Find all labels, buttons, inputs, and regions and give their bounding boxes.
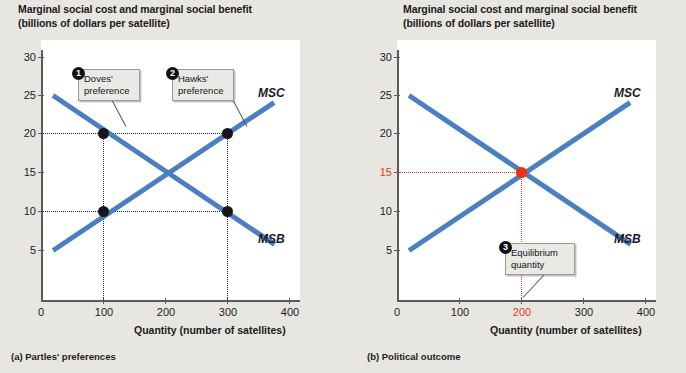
- panel-a-title-line1: Marginal social cost and marginal social…: [18, 3, 328, 17]
- panel-a-xlabel-100: 100: [87, 306, 121, 318]
- panel-a-curve-label-msb: MSB: [258, 232, 285, 246]
- panel-b-xaxis-caption: Quantity (number of satellites): [490, 324, 642, 336]
- panel-b-callout3-line2: quantity: [511, 259, 569, 271]
- panel-b-callout-equilibrium: Equilibrium quantity: [505, 243, 575, 275]
- panel-a-guide-y20: [41, 133, 228, 134]
- panel-b-ylabel-20: 20: [366, 127, 392, 139]
- panel-a-xlabel-200: 200: [149, 306, 183, 318]
- panel-b-ylabel-5: 5: [366, 244, 392, 256]
- panel-political-outcome: Marginal social cost and marginal social…: [343, 0, 686, 373]
- panel-a-ylabel-30: 30: [10, 51, 36, 63]
- panel-a-curve-label-msc: MSC: [258, 86, 285, 100]
- panel-b-callout3-badge: 3: [499, 241, 512, 254]
- panel-a-callout2-badge: 2: [166, 67, 179, 80]
- panel-a-ytick-25: [38, 95, 44, 96]
- panel-b-ylabel-10: 10: [366, 205, 392, 217]
- panel-a-ylabel-5: 5: [10, 244, 36, 256]
- panel-a-title-line2: (billions of dollars per satellite): [18, 17, 328, 31]
- panel-a-xtick-400: [289, 298, 290, 304]
- panel-a-marker-doves-preference: [98, 128, 109, 139]
- panel-b-caption: (b) Political outcome: [367, 351, 460, 362]
- panel-a-x-axis: [41, 300, 300, 302]
- panel-a-callout1-line1: Doves': [84, 73, 134, 85]
- panel-b-y-axis: [397, 50, 399, 302]
- panel-b-xlabel-400: 400: [629, 306, 663, 318]
- panel-b-xlabel-200-highlighted: 200: [505, 306, 539, 318]
- panel-a-marker-msc-at-100: [98, 206, 109, 217]
- panel-b-ytick-25: [394, 95, 400, 96]
- panel-b-xlabel-0: 0: [380, 306, 414, 318]
- panel-b-title-line1: Marginal social cost and marginal social…: [403, 3, 686, 17]
- panel-b-xtick-100: [459, 298, 460, 304]
- panel-a-ylabel-10: 10: [10, 205, 36, 217]
- panel-b-xtick-400: [645, 298, 646, 304]
- panel-b-ytick-10: [394, 211, 400, 212]
- panel-b-guide-x200: [521, 172, 522, 300]
- panel-a-marker-hawks-preference: [222, 128, 233, 139]
- panel-a-xlabel-400: 400: [273, 306, 307, 318]
- panel-b-ylabel-25: 25: [366, 89, 392, 101]
- panel-a-caption: (a) Partles' preferences: [11, 351, 116, 362]
- panel-a-callout-doves: Doves' preference: [78, 69, 140, 101]
- panel-a-callout2-line1: Hawks': [178, 73, 228, 85]
- panel-b-axis-title: Marginal social cost and marginal social…: [403, 3, 686, 30]
- panel-a-callout2-line2: preference: [178, 85, 228, 97]
- panel-a-xlabel-300: 300: [211, 306, 245, 318]
- panel-a-xtick-200: [165, 298, 166, 304]
- panel-a-ylabel-15: 15: [10, 166, 36, 178]
- panel-b-ytick-20: [394, 133, 400, 134]
- panel-a-ytick-5: [38, 250, 44, 251]
- panel-b-marker-equilibrium: [516, 167, 527, 178]
- panel-b-ytick-5: [394, 250, 400, 251]
- panel-a-callout1-line2: preference: [84, 85, 134, 97]
- panel-a-ylabel-25: 25: [10, 89, 36, 101]
- panel-parties-preferences: Marginal social cost and marginal social…: [0, 0, 343, 373]
- panel-b-xlabel-100: 100: [443, 306, 477, 318]
- panel-b-ylabel-30: 30: [366, 51, 392, 63]
- panel-b-guide-y15: [397, 172, 521, 173]
- panel-b-ytick-30: [394, 57, 400, 58]
- panel-b-title-line2: (billions of dollars per satellite): [403, 17, 686, 31]
- panel-a-callout-hawks: Hawks' preference: [172, 69, 234, 101]
- panel-b-x-axis: [397, 300, 656, 302]
- panel-a-y-axis: [41, 50, 43, 302]
- panel-a-ylabel-20: 20: [10, 127, 36, 139]
- panel-a-xlabel-0: 0: [24, 306, 58, 318]
- panel-a-marker-msb-at-300: [222, 206, 233, 217]
- panel-b-callout3-line1: Equilibrium: [511, 247, 569, 259]
- panel-a-ytick-15: [38, 172, 44, 173]
- panel-b-ylabel-15-highlighted: 15: [366, 166, 392, 178]
- panel-a-guide-y10: [41, 211, 228, 212]
- panel-b-curve-label-msb: MSB: [614, 232, 641, 246]
- panel-b-xlabel-300: 300: [567, 306, 601, 318]
- panel-b-curve-label-msc: MSC: [614, 86, 641, 100]
- panel-a-axis-title: Marginal social cost and marginal social…: [18, 3, 328, 30]
- panel-a-ytick-30: [38, 57, 44, 58]
- panel-a-callout1-badge: 1: [72, 67, 85, 80]
- panel-b-xtick-300: [583, 298, 584, 304]
- panel-a-xaxis-caption: Quantity (number of satellites): [134, 324, 286, 336]
